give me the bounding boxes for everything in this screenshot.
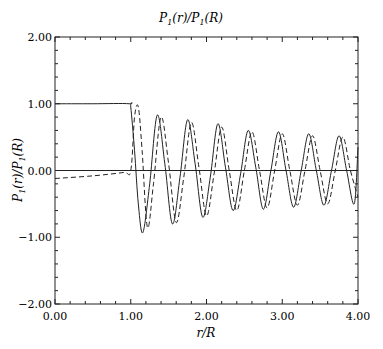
chart: P1(r)/P1(R) 0.001.002.003.004.002.001.00… — [0, 0, 383, 349]
y-axis-label: P1(r)/P1(R) — [11, 138, 27, 203]
y-tick-label: 1.00 — [28, 98, 53, 111]
plot-frame — [55, 37, 358, 304]
x-tick-label: 3.00 — [270, 310, 295, 323]
x-axis-label: r/R — [197, 326, 216, 340]
y-tick-label: −1.00 — [18, 231, 52, 244]
chart-title: P1(r)/P1(R) — [158, 11, 223, 27]
y-tick-label: −2.00 — [18, 298, 52, 311]
y-tick-label: 0.00 — [28, 165, 53, 178]
x-tick-label: 4.00 — [346, 310, 371, 323]
x-tick-label: 0.00 — [43, 310, 68, 323]
x-tick-label: 1.00 — [119, 310, 144, 323]
plot-curves — [55, 103, 358, 233]
dashed-curve — [55, 105, 358, 228]
x-tick-label: 2.00 — [194, 310, 219, 323]
solid-curve — [55, 103, 358, 233]
y-tick-label: 2.00 — [28, 31, 53, 44]
